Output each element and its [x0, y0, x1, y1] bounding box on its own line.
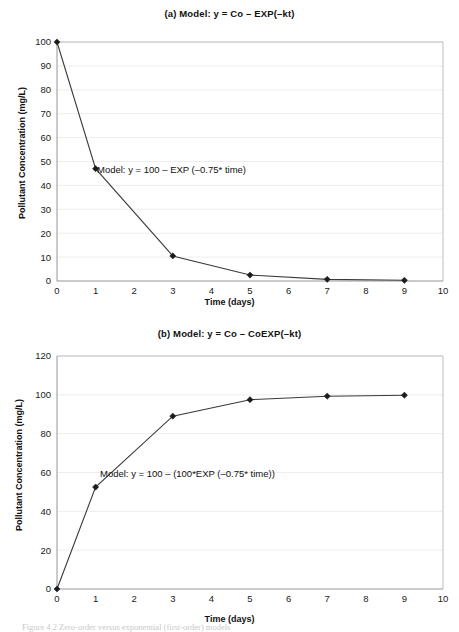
y-tick-label: 100	[35, 389, 51, 400]
x-tick-label: 0	[54, 285, 59, 296]
data-point-marker	[54, 586, 60, 592]
y-tick-label: 70	[40, 108, 51, 119]
panel-a-x-axis-label: Time (days)	[0, 297, 459, 307]
x-tick-label: 0	[54, 593, 59, 604]
y-tick-label: 30	[40, 204, 51, 215]
y-tick-label: 90	[40, 60, 51, 71]
panel-a-plot-area: 0102030405060708090100012345678910Model:…	[0, 30, 459, 305]
y-tick-label: 60	[40, 467, 51, 478]
y-tick-label: 20	[40, 545, 51, 556]
panel-a-svg: 0102030405060708090100012345678910Model:…	[0, 30, 459, 305]
panel-b-svg: 020406080100120012345678910Model: y = 10…	[0, 352, 459, 614]
y-tick-label: 40	[40, 506, 51, 517]
chart-panel-a: (a) Model: y = Co – EXP(–kt) Pollutant C…	[0, 0, 459, 316]
y-tick-label: 0	[46, 275, 51, 286]
chart-annotation: Model: y = 100 – EXP (–0.75* time)	[97, 164, 246, 175]
y-tick-label: 0	[46, 583, 51, 594]
x-tick-label: 2	[132, 285, 137, 296]
data-point-marker	[247, 272, 253, 278]
y-tick-label: 120	[35, 350, 51, 361]
x-tick-label: 9	[402, 593, 407, 604]
x-tick-label: 6	[286, 593, 291, 604]
x-tick-label: 4	[209, 285, 214, 296]
data-point-marker	[324, 393, 330, 399]
x-tick-label: 6	[286, 285, 291, 296]
x-tick-label: 3	[170, 285, 175, 296]
y-tick-label: 50	[40, 156, 51, 167]
x-tick-label: 9	[402, 285, 407, 296]
x-tick-label: 1	[93, 285, 98, 296]
data-point-marker	[54, 39, 60, 45]
y-tick-label: 40	[40, 180, 51, 191]
y-tick-label: 80	[40, 84, 51, 95]
panel-b-title: (b) Model: y = Co – CoEXP(–kt)	[0, 328, 459, 339]
data-point-marker	[247, 397, 253, 403]
data-point-marker	[401, 277, 407, 283]
x-tick-label: 1	[93, 593, 98, 604]
panel-a-title: (a) Model: y = Co – EXP(–kt)	[0, 8, 459, 19]
chart-annotation: Model: y = 100 – (100*EXP (–0.75* time))	[100, 468, 275, 479]
x-tick-label: 8	[363, 593, 368, 604]
x-tick-label: 10	[438, 593, 449, 604]
panel-b-plot-area: 020406080100120012345678910Model: y = 10…	[0, 352, 459, 614]
x-tick-label: 5	[247, 593, 252, 604]
x-tick-label: 2	[132, 593, 137, 604]
x-tick-label: 4	[209, 593, 214, 604]
x-tick-label: 7	[325, 593, 330, 604]
x-tick-label: 7	[325, 285, 330, 296]
data-point-marker	[401, 392, 407, 398]
y-tick-label: 60	[40, 132, 51, 143]
x-tick-label: 10	[438, 285, 449, 296]
data-point-marker	[324, 276, 330, 282]
y-tick-label: 10	[40, 252, 51, 263]
x-tick-label: 8	[363, 285, 368, 296]
y-tick-label: 100	[35, 36, 51, 47]
data-series-line	[57, 395, 404, 589]
y-tick-label: 20	[40, 228, 51, 239]
x-tick-label: 5	[247, 285, 252, 296]
figure-caption: Figure 4.2 Zero-order versus exponential…	[22, 622, 452, 632]
x-tick-label: 3	[170, 593, 175, 604]
chart-panel-b: (b) Model: y = Co – CoEXP(–kt) 020406080…	[0, 316, 459, 614]
panel-b-y-axis-label: Pollutant Concentration (mg/L)	[14, 380, 24, 550]
y-tick-label: 80	[40, 428, 51, 439]
